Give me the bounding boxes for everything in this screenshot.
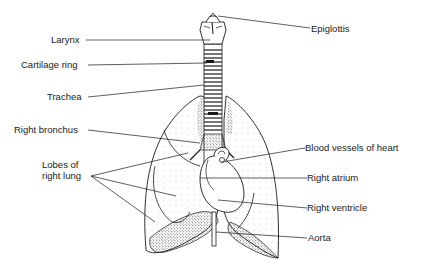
label-cartilage-ring: Cartilage ring bbox=[21, 59, 78, 70]
larynx bbox=[200, 13, 226, 44]
respiratory-diagram: Epiglottis Larynx Cartilage ring Trachea… bbox=[0, 0, 422, 268]
label-right-atrium: Right atrium bbox=[307, 172, 358, 183]
label-larynx: Larynx bbox=[51, 34, 80, 45]
label-aorta: Aorta bbox=[308, 232, 331, 243]
label-lobes-line1: Lobes of bbox=[42, 159, 78, 170]
label-right-ventricle: Right ventricle bbox=[307, 202, 367, 213]
label-epiglottis: Epiglottis bbox=[311, 23, 350, 34]
label-blood-vessels: Blood vessels of heart bbox=[305, 142, 398, 153]
label-lobes-line2: right lung bbox=[42, 170, 81, 181]
label-trachea: Trachea bbox=[47, 91, 82, 102]
label-right-bronchus: Right bronchus bbox=[14, 124, 78, 135]
